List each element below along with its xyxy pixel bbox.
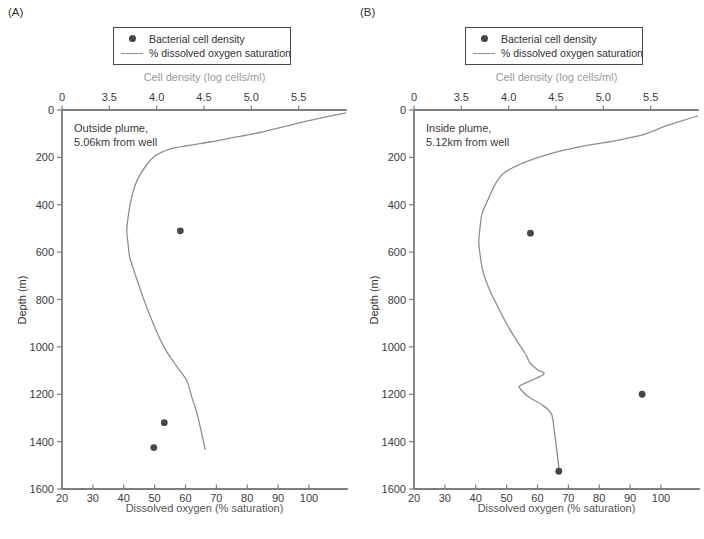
bottom-axis-tick-label: 60 xyxy=(179,492,191,504)
bottom-axis-tick-label: 80 xyxy=(593,492,605,504)
y-axis-tick-label: 200 xyxy=(388,151,406,163)
chart-canvas: 03.54.04.55.05.5020040060080010001200140… xyxy=(0,0,352,539)
y-axis-tick-label: 1000 xyxy=(30,341,54,353)
top-axis-tick-label: 5.0 xyxy=(596,91,611,103)
y-axis-tick-label: 1400 xyxy=(30,436,54,448)
y-axis-tick-label: 600 xyxy=(388,246,406,258)
cell-density-point xyxy=(177,227,184,234)
bottom-axis-tick-label: 100 xyxy=(652,492,670,504)
top-axis-tick-label: 5.5 xyxy=(643,91,658,103)
top-axis-tick-label: 0 xyxy=(59,91,65,103)
bottom-axis-tick-label: 90 xyxy=(624,492,636,504)
y-axis-tick-label: 1200 xyxy=(382,388,406,400)
y-axis-tick-label: 600 xyxy=(36,246,54,258)
bottom-axis-tick-label: 100 xyxy=(300,492,318,504)
bottom-axis-tick-label: 70 xyxy=(562,492,574,504)
y-axis-tick-label: 1600 xyxy=(382,483,406,495)
y-axis-tick-label: 800 xyxy=(36,294,54,306)
y-axis-tick-label: 200 xyxy=(36,151,54,163)
bottom-axis-tick-label: 90 xyxy=(272,492,284,504)
top-axis-tick-label: 4.0 xyxy=(501,91,516,103)
y-axis-tick-label: 400 xyxy=(36,199,54,211)
cell-density-point xyxy=(555,468,562,475)
top-axis-tick-label: 4.5 xyxy=(196,91,211,103)
bottom-axis-tick-label: 20 xyxy=(408,492,420,504)
bottom-axis-tick-label: 50 xyxy=(148,492,160,504)
bottom-axis-tick-label: 80 xyxy=(241,492,253,504)
bottom-axis-tick-label: 40 xyxy=(118,492,130,504)
panel-a: (A) Bacterial cell density % dissolved o… xyxy=(0,0,352,539)
y-axis-tick-label: 1600 xyxy=(30,483,54,495)
oxygen-saturation-curve xyxy=(479,116,698,470)
bottom-axis-tick-label: 40 xyxy=(470,492,482,504)
top-axis-tick-label: 5.5 xyxy=(291,91,306,103)
panel-b: (B) Bacterial cell density % dissolved o… xyxy=(352,0,704,539)
top-axis-tick-label: 3.5 xyxy=(454,91,469,103)
bottom-axis-tick-label: 60 xyxy=(531,492,543,504)
top-axis-tick-label: 5.0 xyxy=(244,91,259,103)
bottom-axis-tick-label: 30 xyxy=(87,492,99,504)
y-axis-tick-label: 1200 xyxy=(30,388,54,400)
top-axis-tick-label: 3.5 xyxy=(102,91,117,103)
y-axis-tick-label: 1400 xyxy=(382,436,406,448)
bottom-axis-tick-label: 50 xyxy=(500,492,512,504)
bottom-axis-tick-label: 20 xyxy=(56,492,68,504)
y-axis-tick-label: 0 xyxy=(400,104,406,116)
y-axis-tick-label: 0 xyxy=(48,104,54,116)
top-axis-tick-label: 4.5 xyxy=(548,91,563,103)
figure-bacterial-density-oxygen-profiles: (A) Bacterial cell density % dissolved o… xyxy=(0,0,704,539)
cell-density-point xyxy=(527,230,534,237)
y-axis-tick-label: 800 xyxy=(388,294,406,306)
top-axis-tick-label: 0 xyxy=(411,91,417,103)
oxygen-saturation-curve xyxy=(127,113,346,450)
bottom-axis-tick-label: 70 xyxy=(210,492,222,504)
bottom-axis-tick-label: 30 xyxy=(439,492,451,504)
cell-density-point xyxy=(161,419,168,426)
top-axis-tick-label: 4.0 xyxy=(149,91,164,103)
y-axis-tick-label: 1000 xyxy=(382,341,406,353)
y-axis-tick-label: 400 xyxy=(388,199,406,211)
chart-canvas: 03.54.04.55.05.5020040060080010001200140… xyxy=(352,0,704,539)
cell-density-point xyxy=(639,391,646,398)
cell-density-point xyxy=(150,444,157,451)
